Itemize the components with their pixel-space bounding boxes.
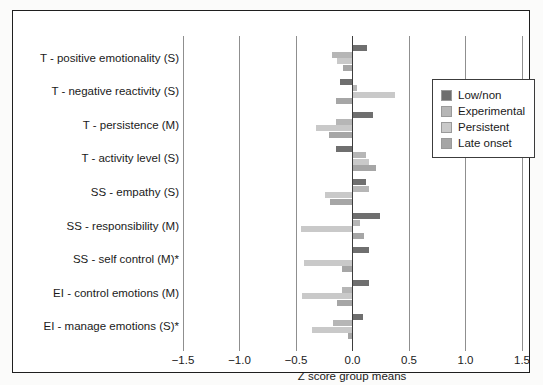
figure-border: T - positive emotionality (S)T - negativ… [12,10,530,373]
legend-swatch-icon [441,138,452,149]
legend-item: Experimental [441,103,525,119]
category-label: T - persistence (M) [27,118,179,133]
bar-persistent [301,226,353,232]
bar-low-non [353,314,363,320]
bar-experimental [336,119,353,125]
gridline [239,36,240,351]
bar-experimental [333,320,352,326]
legend-label: Experimental [458,105,525,117]
category-label: EI - control emotions (M) [27,286,179,301]
legend-swatch-icon [441,122,452,133]
legend-swatch-icon [441,90,452,101]
bar-low-non [353,247,370,253]
bar-late-onset [342,266,352,272]
bar-experimental [332,52,352,58]
x-axis-title: Z score group means [252,369,452,383]
x-tick-label: −1.5 [163,354,203,367]
x-tick-label: −1.0 [220,354,260,367]
bar-late-onset [353,233,364,239]
bar-persistent [302,293,353,299]
category-label: SS - responsibility (M) [27,219,179,234]
x-tick-label: 1.0 [446,354,486,367]
bar-late-onset [348,333,353,339]
bar-late-onset [353,165,377,171]
gridline [409,36,410,351]
legend-label: Persistent [458,121,509,133]
legend-item: Persistent [441,119,525,135]
bar-low-non [353,112,373,118]
bar-persistent [353,159,370,165]
legend-item: Low/non [441,87,525,103]
category-label: SS - empathy (S) [27,185,179,200]
legend-label: Low/non [458,89,501,101]
legend-swatch-icon [441,106,452,117]
bar-late-onset [337,300,353,306]
x-tick-label: 1.5 [502,354,542,367]
category-label: T - positive emotionality (S) [27,51,179,66]
x-tick-label: 0.0 [333,354,373,367]
bar-persistent [316,125,352,131]
gridline [183,36,184,351]
bar-low-non [353,45,368,51]
legend-label: Late onset [458,137,512,149]
legend-item: Late onset [441,135,525,151]
bar-late-onset [343,65,352,71]
bar-late-onset [336,98,353,104]
category-label: EI - manage emotions (S)* [27,319,179,334]
x-tick-label: 0.5 [389,354,429,367]
bar-persistent [337,58,353,64]
gridline [296,36,297,351]
bar-low-non [353,280,370,286]
category-label: T - negative reactivity (S) [27,84,179,99]
bar-low-non [340,79,352,85]
x-tick-label: −0.5 [276,354,316,367]
bar-low-non [353,179,367,185]
bar-experimental [342,287,352,293]
bar-persistent [353,92,396,98]
bar-experimental [353,186,370,192]
category-label: SS - self control (M)* [27,252,179,267]
bar-experimental [353,152,367,158]
bar-late-onset [330,199,353,205]
bar-low-non [353,213,380,219]
bar-persistent [304,260,353,266]
bar-experimental [353,85,358,91]
category-label: T - activity level (S) [27,151,179,166]
bar-low-non [336,146,353,152]
bar-experimental [353,220,361,226]
legend: Low/nonExperimentalPersistentLate onset [432,79,535,158]
bar-persistent [312,327,353,333]
bar-persistent [325,192,352,198]
bar-late-onset [329,132,353,138]
